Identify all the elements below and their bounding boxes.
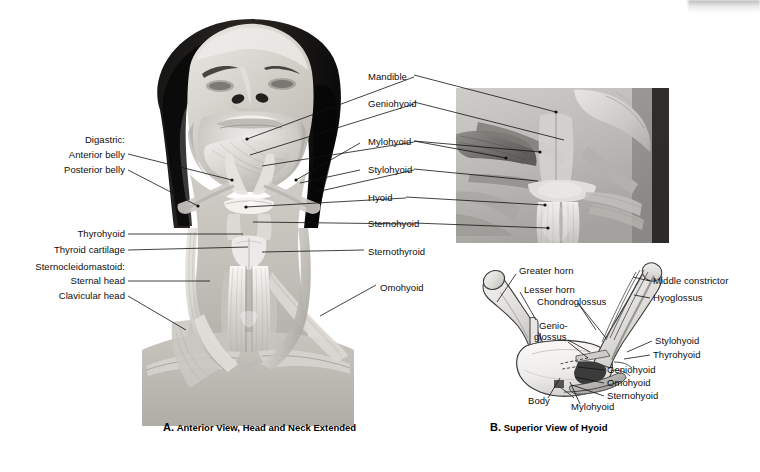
label-b-thyrohyoid: Thyrohyoid — [653, 349, 701, 360]
panel-a-caption-text: Anterior View, Head and Neck Extended — [177, 422, 357, 433]
panel-b-caption-text: Superior View of Hyoid — [504, 422, 608, 433]
label-b-genioglossus-line2: glossus — [534, 331, 567, 342]
label-b-omohyoid: Omohyoid — [607, 377, 651, 388]
label-hyoid: Hyoid — [368, 192, 393, 203]
anatomy-figure: Digastric: Anterior belly Posterior bell… — [0, 0, 760, 472]
label-b-stylohyoid: Stylohyoid — [655, 335, 699, 346]
label-b-genioglossus-line1: Genio- — [539, 320, 568, 331]
label-b-geniohyoid: Geniohyoid — [607, 364, 656, 375]
label-b-chondroglossus: Chondroglossus — [537, 296, 606, 307]
label-b-greater-horn: Greater horn — [519, 265, 573, 276]
label-omohyoid: Omohyoid — [380, 282, 424, 293]
panel-b-caption: B. Superior View of Hyoid — [490, 421, 607, 433]
panel-a-caption-letter: A. — [163, 421, 174, 433]
label-sternal-head: Sternal head — [71, 275, 125, 286]
panel-b-caption-letter: B. — [490, 421, 501, 433]
label-b-lesser-horn: Lesser horn — [524, 284, 575, 295]
panel-a-inset-photograph — [456, 88, 669, 243]
inset-dissection-render — [456, 88, 669, 243]
thyrohyoid-muscle — [227, 214, 243, 240]
label-mandible: Mandible — [368, 71, 407, 82]
label-sternothyroid: Sternothyroid — [368, 246, 425, 257]
scan-artifact — [688, 0, 760, 13]
label-geniohyoid: Geniohyoid — [368, 98, 417, 109]
label-b-body: Body — [528, 395, 550, 406]
panel-a-caption: A. Anterior View, Head and Neck Extended — [163, 421, 356, 433]
label-b-hyoglossus: Hyoglossus — [653, 292, 703, 303]
thyrohyoid-muscle-right — [256, 214, 272, 240]
label-digastric-group: Digastric: — [85, 134, 125, 145]
panel-a-photograph — [132, 14, 364, 426]
label-anterior-belly: Anterior belly — [69, 149, 125, 160]
label-thyrohyoid: Thyrohyoid — [78, 228, 126, 239]
label-sternocleidomastoid: Sternocleidomastoid: — [35, 261, 125, 272]
label-posterior-belly: Posterior belly — [64, 164, 125, 175]
label-b-sternohyoid: Sternohyoid — [607, 390, 658, 401]
label-stylohyoid: Stylohyoid — [368, 164, 412, 175]
inset-edge-shadow — [652, 88, 669, 243]
head-neck-photo-render — [132, 14, 364, 426]
sternohyoid-right — [252, 266, 271, 352]
label-b-mylohyoid: Mylohyoid — [571, 401, 614, 412]
label-b-middle-constrictor: Middle constrictor — [653, 275, 728, 286]
label-mylohyoid: Mylohyoid — [368, 136, 411, 147]
label-sternohyoid: Sternohyoid — [368, 218, 419, 229]
label-thyroid-cartilage: Thyroid cartilage — [54, 244, 125, 255]
label-clavicular-head: Clavicular head — [59, 290, 125, 301]
